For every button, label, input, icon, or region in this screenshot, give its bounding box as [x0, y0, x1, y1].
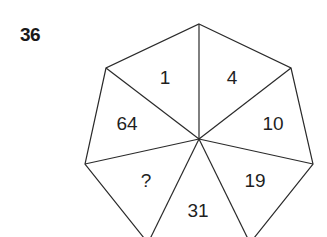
heptagon-diagram: 1 4 10 19 31 ? 64: [0, 0, 327, 237]
segment-label-top-left: 1: [160, 67, 171, 88]
segment-label-top-right: 4: [227, 67, 238, 88]
segment-label-lower-left: ?: [141, 170, 152, 191]
segment-label-left: 64: [116, 113, 138, 134]
segment-label-lower-right: 19: [244, 170, 265, 191]
segment-label-right: 10: [262, 113, 283, 134]
segment-label-bottom: 31: [187, 200, 208, 221]
